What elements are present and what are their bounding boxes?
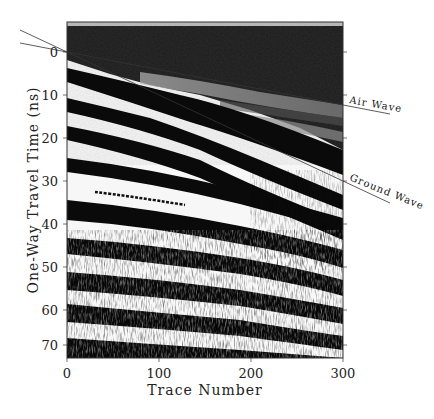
y-tick-30: 30 (41, 174, 58, 189)
x-tick-labels: 0 100 200 300 (63, 366, 356, 381)
y-tick-20: 20 (41, 131, 58, 146)
y-tick-70: 70 (41, 338, 58, 353)
y-tick-50: 50 (41, 260, 58, 275)
x-tick-0: 0 (63, 366, 71, 381)
ground-wave-label: Ground Wave (348, 172, 426, 212)
x-axis (67, 358, 343, 362)
radargram-figure: 0 10 20 30 40 50 60 70 0 100 200 300 Tra… (0, 0, 434, 419)
y-axis-title: One-Way Travel Time (ns) (25, 86, 41, 293)
x-tick-200: 200 (239, 366, 264, 381)
x-tick-100: 100 (147, 366, 172, 381)
x-axis-title: Trace Number (147, 382, 262, 398)
y-tick-labels: 0 10 20 30 40 50 60 70 (41, 45, 58, 353)
y-tick-10: 10 (41, 88, 58, 103)
x-tick-300: 300 (331, 366, 356, 381)
y-tick-40: 40 (41, 217, 58, 232)
plot-area (67, 22, 343, 358)
y-tick-60: 60 (41, 303, 58, 318)
